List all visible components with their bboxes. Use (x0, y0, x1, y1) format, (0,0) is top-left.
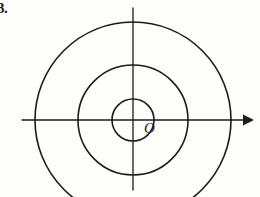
problem-number-label: 3. (0, 0, 7, 17)
spiral-diagram (0, 0, 260, 197)
x-axis-arrowhead (243, 115, 254, 126)
origin-label: O (144, 120, 155, 137)
figure-canvas: 3. O (0, 0, 260, 197)
